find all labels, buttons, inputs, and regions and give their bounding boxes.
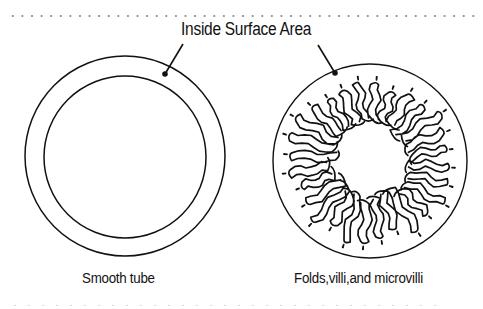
folded-tube-figure <box>273 64 467 258</box>
smooth-tube-outer-wall <box>25 56 225 256</box>
smooth-tube-figure <box>25 56 225 256</box>
smooth-tube-inner-surface <box>44 76 206 238</box>
leader-dot-left <box>163 72 167 76</box>
villi-outline <box>283 77 455 250</box>
caption-smooth-tube: Smooth tube <box>82 269 155 287</box>
dotted-divider-bottom <box>8 304 448 307</box>
leader-dot-right <box>333 71 337 75</box>
caption-folds-villi: Folds,villi,and microvilli <box>294 269 423 287</box>
diagram-title: Inside Surface Area <box>181 19 311 40</box>
leader-line-right <box>318 45 335 73</box>
diagram-canvas <box>0 0 483 309</box>
leader-lines <box>163 44 337 76</box>
villi-folds <box>283 77 455 250</box>
